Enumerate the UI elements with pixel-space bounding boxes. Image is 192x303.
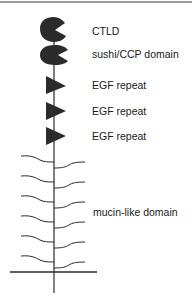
egf-repeat-icon bbox=[46, 127, 66, 145]
egf-repeat-icon bbox=[46, 76, 66, 94]
sushi-domain-icon bbox=[40, 45, 68, 65]
label-mucin: mucin-like domain bbox=[93, 206, 178, 218]
egf-repeat-icon bbox=[46, 102, 66, 120]
mucin-glycans bbox=[21, 156, 85, 268]
domain-schematic bbox=[0, 0, 192, 303]
ctld-icon bbox=[40, 17, 66, 42]
label-ctld: CTLD bbox=[92, 25, 119, 37]
label-sushi-ccp: sushi/CCP domain bbox=[92, 48, 179, 60]
label-egf-1: EGF repeat bbox=[92, 79, 146, 91]
label-egf-2: EGF repeat bbox=[92, 105, 146, 117]
label-egf-3: EGF repeat bbox=[92, 130, 146, 142]
